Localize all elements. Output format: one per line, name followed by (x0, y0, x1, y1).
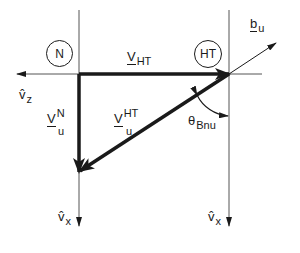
vz-sub: z (27, 93, 33, 105)
vht-u-label: VHT (114, 112, 138, 125)
theta-bnu-label: θBnu (188, 114, 216, 127)
v-ht-sub: HT (137, 55, 152, 67)
vz-main: v̂ (19, 88, 26, 101)
diagram-lines (0, 0, 300, 253)
vz-axis-label: v̂z (19, 88, 32, 101)
vx-left-main: v̂ (58, 210, 65, 223)
vn-u-sub-label: u (58, 126, 64, 137)
vx-right-sub: x (216, 215, 222, 227)
frame-ht-circle: HT (194, 40, 222, 68)
vht-u-sub-label: u (126, 126, 132, 137)
b-u-label: bu (250, 17, 264, 30)
angle-arc (197, 95, 228, 116)
theta-main: θ (188, 114, 195, 127)
frame-ht-label: HT (200, 47, 216, 61)
vx-left-sub: x (66, 215, 72, 227)
frame-n-label: N (55, 47, 64, 61)
vx-left-axis-label: v̂x (58, 210, 71, 223)
vn-u-main: V (47, 112, 56, 125)
vx-right-main: v̂ (208, 210, 215, 223)
b-u-sub: u (258, 22, 264, 34)
vht-u-sup: HT (124, 107, 139, 119)
v-ht-main: V (127, 50, 136, 63)
vn-u-label: VN (47, 112, 65, 125)
vn-u-sub: u (58, 125, 64, 137)
v-ht-label: VHT (127, 50, 151, 63)
b-u-vector (229, 43, 276, 74)
frame-n-circle: N (46, 40, 73, 67)
vx-right-axis-label: v̂x (208, 210, 221, 223)
vector-diagram: N HT VHT bu v̂z VN u VHT u θBnu v̂x v̂x (0, 0, 300, 253)
vht-u-sub: u (126, 125, 132, 137)
b-u-main: b (250, 17, 257, 30)
theta-sub: Bnu (196, 119, 216, 131)
vn-u-sup: N (57, 107, 65, 119)
vht-u-main: V (114, 112, 123, 125)
